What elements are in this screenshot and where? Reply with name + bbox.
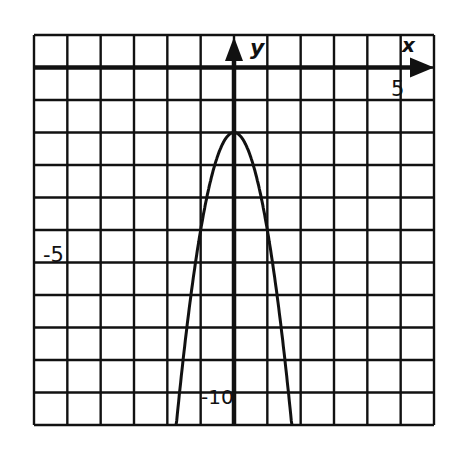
- y-tick-label-neg10: -10: [201, 385, 234, 409]
- x-tick-label-neg5: -5: [43, 243, 64, 267]
- x-axis-label: x: [401, 33, 416, 57]
- y-axis-arrow-icon: [225, 37, 243, 61]
- parabola-graph: x y 5 -5 -10: [0, 0, 464, 458]
- x-tick-label-5: 5: [391, 77, 404, 101]
- x-axis-arrow-icon: [410, 58, 434, 78]
- y-axis-label: y: [250, 35, 266, 60]
